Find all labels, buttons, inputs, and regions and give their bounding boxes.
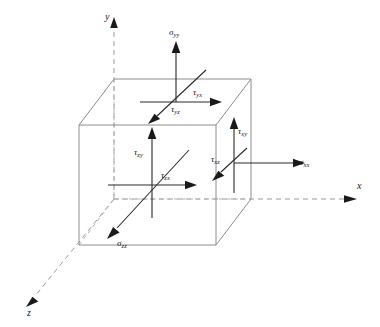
sigma-zz-subscript: zz — [121, 242, 126, 249]
stress-element-diagram: y x z σyy τyx τyz σxx τxy τxz σzz τzy τz… — [0, 0, 380, 327]
sigma-xx-subscript: xx — [303, 161, 309, 168]
y-axis-arrowhead — [110, 17, 118, 28]
cube-group — [79, 79, 251, 245]
sigma-zz-label: σzz — [117, 239, 127, 248]
sigma-yy-label: σyy — [169, 28, 180, 37]
y-axis-label: y — [105, 12, 109, 22]
tau-xy-arrowhead — [230, 117, 239, 129]
tau-xy-label: τxy — [238, 127, 247, 136]
tau-yx-arrowhead — [210, 98, 222, 106]
sigma-yy-arrowhead — [172, 41, 181, 53]
tau-xz-subscript: xz — [214, 158, 220, 165]
sigma-xx-label: σxx — [299, 158, 310, 167]
x-axis-arrowhead — [344, 195, 357, 203]
tau-xz-arrowhead — [212, 171, 224, 181]
sigma-zz-shaft — [117, 150, 189, 228]
tau-xy-subscript: xy — [241, 130, 247, 137]
right-face-stress-triad — [212, 117, 305, 193]
diagram-canvas — [0, 0, 380, 327]
tau-zy-subscript: zy — [137, 151, 143, 158]
tau-yz-label: τyz — [171, 105, 180, 114]
tau-yx-label: τyx — [193, 88, 202, 97]
tau-xz-label: τxz — [211, 155, 220, 164]
tau-zy-arrowhead — [148, 127, 157, 139]
cube-edge-top-left-diagonal — [79, 79, 114, 125]
tau-zx-arrowhead — [185, 181, 197, 189]
sigma-yy-subscript: yy — [173, 31, 179, 38]
z-axis-line — [35, 199, 114, 296]
z-axis-arrowhead — [26, 297, 38, 307]
front-face-stress-triad — [107, 127, 197, 239]
tau-zx-subscript: zx — [164, 174, 170, 181]
x-axis-label: x — [357, 181, 361, 191]
tau-zy-label: τzy — [134, 148, 143, 157]
cube-edge-bottom-right-diagonal — [216, 199, 251, 245]
z-axis-label: z — [27, 308, 31, 318]
tau-yz-subscript: yz — [174, 108, 180, 115]
top-face-stress-triad — [140, 41, 222, 124]
tau-yx-subscript: yx — [196, 91, 202, 98]
tau-zx-label: τzx — [161, 171, 170, 180]
